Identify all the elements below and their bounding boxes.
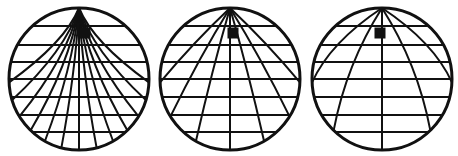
globe-1 [9, 8, 149, 150]
globe-diagram-canvas [0, 0, 458, 156]
position-marker [80, 28, 91, 39]
position-marker [375, 28, 386, 39]
globe-2 [160, 8, 300, 150]
position-marker [228, 28, 239, 39]
globe-diagram-figure [0, 0, 458, 156]
globe-3 [312, 8, 452, 150]
longitude-meridian-3 [196, 8, 230, 141]
